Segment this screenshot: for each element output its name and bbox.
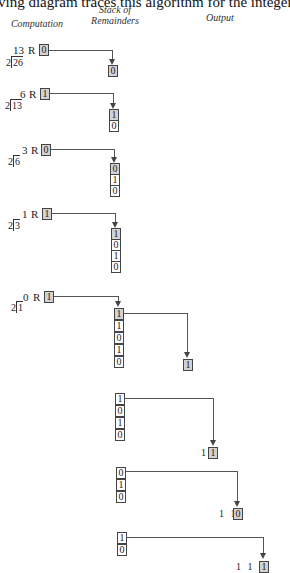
stack-cell: 1 <box>114 320 124 332</box>
connector-line <box>237 471 238 502</box>
dividend: 26 <box>11 56 23 68</box>
r-label: R <box>33 291 40 303</box>
output-prefix: 1 <box>201 447 208 458</box>
connector-line <box>213 398 214 440</box>
output-popped-digit: 1 <box>183 359 193 371</box>
stack-cell: 0 <box>108 65 118 77</box>
r-label: R <box>31 144 38 156</box>
header-output: Output <box>190 12 250 23</box>
arrow-down-icon <box>184 352 190 358</box>
header-stack-line1: Stack of <box>80 4 150 15</box>
division-expression: 213 <box>5 100 22 111</box>
division-expression: 226 <box>6 57 23 68</box>
stack-cell: 0 <box>117 544 127 556</box>
connector-line <box>127 537 263 538</box>
connector-line <box>50 93 113 94</box>
connector-line <box>51 149 114 150</box>
dividend: 1 <box>16 301 23 313</box>
stack-cell: 0 <box>115 429 125 441</box>
arrow-down-icon <box>210 440 216 446</box>
r-label: R <box>31 208 38 220</box>
division-expression: 21 <box>11 302 23 313</box>
arrow-down-icon <box>260 553 266 559</box>
stack-cell: 1 <box>116 479 126 491</box>
connector-line <box>125 398 213 399</box>
header-stack-of-remainders: Stack of Remainders <box>80 4 150 26</box>
quotient: 1 <box>22 208 28 220</box>
header-stack-line2: Remainders <box>80 15 150 26</box>
connector-line <box>54 296 118 297</box>
stack-cell: 1 <box>117 532 127 544</box>
connector-line <box>187 313 188 353</box>
stack-cell: 0 <box>116 491 126 503</box>
r-label: R <box>28 44 35 56</box>
connector-line <box>263 537 264 554</box>
quotient: 0 <box>23 291 29 303</box>
stack-cell: 1 <box>115 417 125 429</box>
connector-line <box>124 313 187 314</box>
stack-cell: 0 <box>110 185 120 197</box>
stack-cell: 0 <box>114 356 124 368</box>
dividend: 13 <box>10 99 22 111</box>
remainder-box: 0 <box>41 144 51 156</box>
stack-cell: 0 <box>116 467 126 479</box>
stack-cell: 1 <box>114 344 124 356</box>
remainder-box: 1 <box>42 208 52 220</box>
stack-cell: 1 <box>115 393 125 405</box>
connector-line <box>49 50 112 51</box>
arrow-down-icon <box>234 501 240 507</box>
stack-cell: 0 <box>115 405 125 417</box>
output-popped-digit: 1 <box>259 561 269 573</box>
arrow-down-icon <box>115 301 121 307</box>
quotient: 3 <box>22 144 28 156</box>
remainder-box: 1 <box>40 88 50 100</box>
remainder-box: 0 <box>39 44 49 56</box>
header-computation: Computation <box>2 18 72 29</box>
remainder-box: 1 <box>44 291 54 303</box>
stack-cell: 0 <box>109 120 119 132</box>
stack-cell: 1 <box>114 308 124 320</box>
dividend: 3 <box>13 219 20 231</box>
connector-line <box>126 471 237 472</box>
division-expression: 26 <box>8 156 20 167</box>
r-label: R <box>29 88 36 100</box>
connector-line <box>52 213 115 214</box>
output-popped-digit: 0 <box>233 508 243 520</box>
dividend: 6 <box>13 155 20 167</box>
division-expression: 23 <box>8 220 20 231</box>
stack-cell: 0 <box>114 332 124 344</box>
stack-cell: 0 <box>111 261 121 273</box>
output-popped-digit: 1 <box>208 447 218 459</box>
quotient: 13 <box>13 44 24 56</box>
